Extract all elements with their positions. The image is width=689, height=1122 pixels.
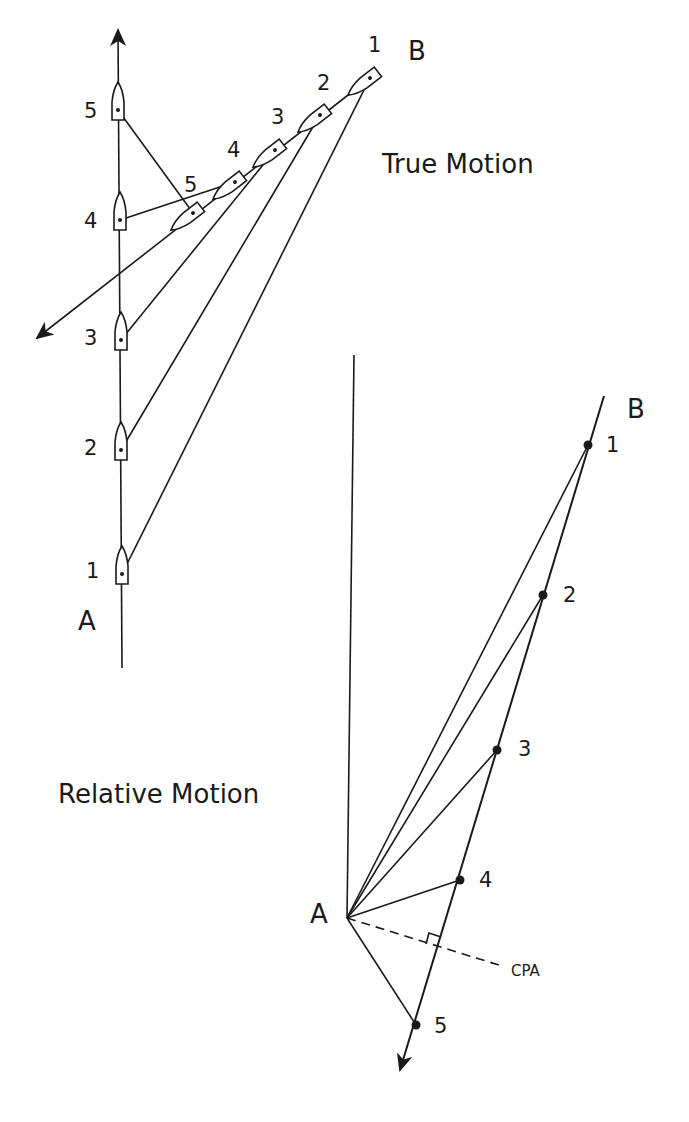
position-dot bbox=[456, 876, 465, 885]
boat-icon bbox=[115, 312, 127, 350]
target-label: B bbox=[408, 36, 426, 66]
own-ship-label: A bbox=[78, 606, 96, 636]
true-motion-title: True Motion bbox=[381, 149, 534, 179]
relative-point-label: 5 bbox=[434, 1014, 447, 1038]
own-position-label: 5 bbox=[84, 99, 97, 123]
range-lines bbox=[347, 445, 588, 1025]
cpa-label: CPA bbox=[511, 962, 541, 980]
boat-icon bbox=[112, 82, 124, 120]
own-position-label: 1 bbox=[86, 559, 99, 583]
position-dot bbox=[412, 1021, 421, 1030]
target-position-label: 1 bbox=[368, 33, 381, 57]
boat-icon bbox=[294, 104, 331, 137]
target-position-label: 3 bbox=[271, 105, 284, 129]
relative-point-label: 4 bbox=[479, 868, 492, 892]
own-ship-boats bbox=[112, 82, 128, 584]
own-position-label: 3 bbox=[84, 326, 97, 350]
boat-icon bbox=[167, 202, 204, 235]
bearing-lines bbox=[118, 78, 370, 574]
relative-point-label: 2 bbox=[563, 583, 576, 607]
target-boats bbox=[167, 67, 381, 235]
relative-target-label: B bbox=[627, 394, 645, 424]
boat-icon bbox=[114, 192, 126, 230]
relative-motion-line bbox=[400, 396, 604, 1070]
boat-icon bbox=[116, 546, 128, 584]
relative-motion-diagram: 1 2 3 4 5 B A CPA Relative Motion bbox=[58, 355, 645, 1070]
target-position-label: 5 bbox=[184, 173, 197, 197]
diagram-canvas: 5 4 3 2 1 A 1 2 3 4 5 B True Motion bbox=[0, 0, 689, 1122]
heading-line bbox=[347, 355, 354, 918]
boat-icon bbox=[344, 67, 381, 100]
own-position-label: 4 bbox=[84, 209, 97, 233]
position-dot bbox=[493, 746, 502, 755]
boat-icon bbox=[209, 171, 246, 204]
relative-own-ship-label: A bbox=[310, 899, 328, 929]
true-motion-diagram: 5 4 3 2 1 A 1 2 3 4 5 B True Motion bbox=[37, 30, 534, 668]
target-position-label: 4 bbox=[227, 138, 240, 162]
own-position-label: 2 bbox=[84, 436, 97, 460]
boat-icon bbox=[249, 139, 286, 172]
cpa-line bbox=[347, 918, 502, 966]
position-dot bbox=[539, 591, 548, 600]
relative-point-label: 3 bbox=[518, 737, 531, 761]
relative-motion-title: Relative Motion bbox=[58, 779, 259, 809]
position-dot bbox=[584, 441, 593, 450]
boat-icon bbox=[115, 422, 127, 460]
relative-point-label: 1 bbox=[606, 433, 619, 457]
target-position-label: 2 bbox=[317, 71, 330, 95]
